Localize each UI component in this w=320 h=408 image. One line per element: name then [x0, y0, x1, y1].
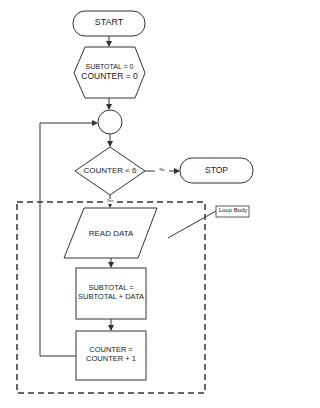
accumulate-label: SUBTOTAL = SUBTOTAL + DATA	[76, 283, 146, 301]
init-line-2: COUNTER = 0	[74, 71, 145, 81]
read-label: READ DATA	[70, 229, 152, 239]
init-label: SUBTOTAL = 0 COUNTER = 0	[74, 63, 145, 82]
accumulate-line-2: SUBTOTAL + DATA	[76, 292, 146, 301]
init-line-1: SUBTOTAL = 0	[74, 63, 145, 71]
start-label: START	[73, 17, 145, 28]
annotation-label: Loop Body	[216, 207, 250, 214]
no-label: No	[155, 168, 169, 173]
yes-label: Yes	[104, 199, 116, 204]
stop-label: STOP	[180, 165, 253, 175]
accumulate-line-1: SUBTOTAL =	[76, 283, 146, 292]
annotation-callout-line	[168, 211, 216, 238]
decision-label: COUNTER < 6	[75, 166, 145, 176]
increment-label: COUNTER = COUNTER + 1	[76, 345, 146, 363]
increment-line-2: COUNTER + 1	[76, 354, 146, 363]
increment-line-1: COUNTER =	[76, 345, 146, 354]
connector-circle	[98, 110, 122, 134]
